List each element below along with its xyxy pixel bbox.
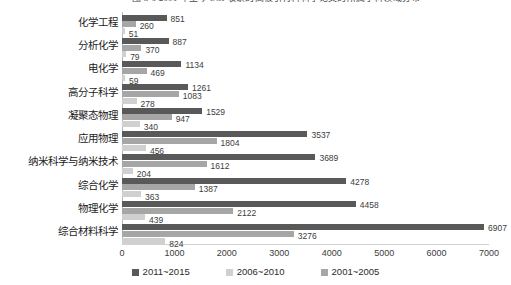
bar-2001~2005 — [122, 184, 195, 190]
x-tick-label: 7000 — [479, 247, 499, 259]
bar-value-label: 2122 — [237, 209, 256, 218]
bar-2011~2015 — [122, 15, 167, 21]
bar-2006~2010 — [122, 75, 125, 81]
bar-value-label: 3276 — [298, 232, 317, 241]
bar-2006~2010 — [122, 191, 141, 197]
bar-value-label: 1612 — [211, 162, 230, 171]
legend-item[interactable]: 2006~2010 — [226, 266, 285, 278]
bar-value-label: 6907 — [488, 224, 507, 233]
legend-swatch-icon — [226, 269, 233, 276]
bar-2006~2010 — [122, 145, 146, 151]
bar-2006~2010 — [122, 238, 165, 244]
legend-item[interactable]: 2001~2005 — [321, 266, 380, 278]
category-label: 应用物理 — [2, 133, 118, 145]
bar-value-label: 947 — [176, 115, 190, 124]
category-label: 纳米科学与纳米技术 — [2, 156, 118, 168]
legend-label: 2006~2010 — [237, 266, 285, 278]
legend-label: 2001~2005 — [332, 266, 380, 278]
bar-value-label: 887 — [173, 38, 187, 47]
bar-2011~2015 — [122, 224, 484, 230]
bar-value-label: 370 — [145, 46, 159, 55]
bar-value-label: 1134 — [185, 61, 203, 70]
bar-value-label: 3689 — [319, 154, 338, 163]
x-tick-label: 0 — [119, 247, 124, 259]
bar-2011~2015 — [122, 201, 356, 207]
bar-value-label: 4278 — [350, 178, 369, 187]
bar-group: 12611083278 — [122, 82, 489, 105]
bar-2001~2005 — [122, 114, 172, 120]
bar-2011~2015 — [122, 84, 188, 90]
bar-value-label: 1083 — [183, 92, 202, 101]
bar-group: 88737079 — [122, 35, 489, 58]
bar-2001~2005 — [122, 208, 233, 214]
category-label: 凝聚态物理 — [2, 110, 118, 122]
x-tick-label: 1000 — [164, 247, 184, 259]
bar-2006~2010 — [122, 98, 137, 104]
bar-2006~2010 — [122, 121, 140, 127]
bar-2001~2005 — [122, 68, 147, 74]
bar-value-label: 469 — [151, 69, 165, 78]
bar-group: 44582122439 — [122, 198, 489, 221]
bar-2001~2005 — [122, 45, 141, 51]
bar-value-label: 1387 — [199, 185, 218, 194]
bar-2011~2015 — [122, 178, 346, 184]
bar-2011~2015 — [122, 38, 169, 44]
chart-legend: 2011~20152006~20102001~2005 — [0, 262, 511, 278]
category-label: 分析化学 — [2, 40, 118, 52]
category-label: 高分子科学 — [2, 87, 118, 99]
bar-2006~2010 — [122, 51, 126, 57]
category-label: 化学工程 — [2, 17, 118, 29]
bar-value-label: 1529 — [206, 108, 225, 117]
category-label: 物理化学 — [2, 203, 118, 215]
bar-group: 85126051 — [122, 12, 489, 35]
bar-group: 35371804456 — [122, 129, 489, 152]
bar-group: 69073276824 — [122, 222, 489, 245]
legend-swatch-icon — [321, 269, 328, 276]
bar-2001~2005 — [122, 21, 136, 27]
bar-2001~2005 — [122, 161, 207, 167]
bar-group: 1529947340 — [122, 105, 489, 128]
figure-caption-cropped: 图 3-6 2001 年至今 SCI 收录的高被引材料科学论文的所属学科领域分布 — [0, 0, 511, 7]
bar-value-label: 1804 — [221, 139, 240, 148]
bar-value-label: 851 — [171, 15, 185, 24]
category-axis-labels: 化学工程分析化学电化学高分子科学凝聚态物理应用物理纳米科学与纳米技术综合化学物理… — [0, 12, 118, 245]
x-tick-label: 6000 — [427, 247, 447, 259]
figure-caption-text: 图 3-6 2001 年至今 SCI 收录的高被引材料科学论文的所属学科领域分布 — [132, 0, 420, 4]
bar-chart: 图 3-6 2001 年至今 SCI 收录的高被引材料科学论文的所属学科领域分布… — [0, 0, 511, 285]
bar-value-label: 3537 — [311, 131, 330, 140]
x-tick-label: 3000 — [269, 247, 289, 259]
bar-group: 42781387363 — [122, 175, 489, 198]
legend-item[interactable]: 2011~2015 — [132, 266, 190, 278]
legend-swatch-icon — [132, 269, 139, 276]
bar-2011~2015 — [122, 108, 202, 114]
bar-2006~2010 — [122, 214, 145, 220]
x-tick-label: 5000 — [374, 247, 394, 259]
bar-value-label: 260 — [140, 22, 154, 31]
bar-2001~2005 — [122, 138, 217, 144]
bar-2006~2010 — [122, 28, 125, 34]
bar-2011~2015 — [122, 131, 307, 137]
bar-2001~2005 — [122, 91, 179, 97]
bar-2011~2015 — [122, 154, 315, 160]
category-label: 综合化学 — [2, 180, 118, 192]
bar-2011~2015 — [122, 61, 181, 67]
value-axis-ticks: 01000200030004000500060007000 — [122, 247, 489, 261]
x-tick-label: 4000 — [322, 247, 342, 259]
x-tick-label: 2000 — [217, 247, 237, 259]
bar-2006~2010 — [122, 168, 133, 174]
bar-value-label: 4458 — [360, 201, 379, 210]
category-label: 综合材料科学 — [2, 226, 118, 238]
category-label: 电化学 — [2, 63, 118, 75]
bar-group: 36891612204 — [122, 152, 489, 175]
bar-2001~2005 — [122, 231, 294, 237]
plot-area: 8512605188737079113446959126110832781529… — [122, 12, 489, 245]
legend-label: 2011~2015 — [143, 266, 190, 278]
bar-group: 113446959 — [122, 59, 489, 82]
